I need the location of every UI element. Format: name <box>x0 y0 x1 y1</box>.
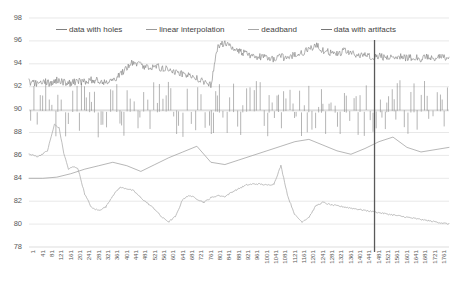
x-axis-tick-label: 441 <box>133 250 139 260</box>
x-axis-tick-label: 1001 <box>264 250 270 264</box>
x-axis-tick-label: 481 <box>142 250 148 260</box>
x-axis-tick-label: 1681 <box>422 250 428 264</box>
y-axis-tick-label: 98 <box>2 14 22 22</box>
x-axis-tick-label: 801 <box>217 250 223 260</box>
legend-line-icon <box>248 29 259 30</box>
x-axis-tick-label: 681 <box>189 250 195 260</box>
y-axis-tick-label: 84 <box>2 174 22 182</box>
x-axis-tick-label: 641 <box>180 250 186 260</box>
x-axis-tick-label: 561 <box>161 250 167 260</box>
legend-line-icon <box>146 29 157 30</box>
x-axis-tick-label: 601 <box>170 250 176 260</box>
y-axis-tick-label: 94 <box>2 59 22 67</box>
x-axis-tick-label: 201 <box>77 250 83 260</box>
legend-label: linear interpolation <box>159 25 224 34</box>
x-axis-tick-label: 1241 <box>320 250 326 264</box>
x-axis-tick-label: 281 <box>96 250 102 260</box>
x-axis-tick-label: 1161 <box>301 250 307 263</box>
y-axis-tick-label: 82 <box>2 197 22 205</box>
x-axis-tick-label: 1041 <box>273 250 279 264</box>
x-axis-tick-label: 921 <box>245 250 251 260</box>
chart-plot-area <box>0 0 453 283</box>
x-axis-tick-label: 721 <box>198 250 204 260</box>
series-data-with-artifacts <box>29 80 449 137</box>
y-axis-tick-label: 80 <box>2 220 22 228</box>
x-axis-tick-label: 241 <box>86 250 92 260</box>
x-axis-tick-label: 1761 <box>441 250 447 264</box>
x-axis-tick-label: 361 <box>114 250 120 260</box>
x-axis-tick-label: 1601 <box>404 250 410 264</box>
y-axis-tick-label: 92 <box>2 82 22 90</box>
y-axis-tick-label: 96 <box>2 36 22 44</box>
legend-item-deadband[interactable]: deadband <box>248 25 297 34</box>
x-axis-tick-label: 1281 <box>329 250 335 264</box>
legend-label: data with holes <box>69 25 122 34</box>
y-axis-tick-label: 88 <box>2 128 22 136</box>
y-axis-tick-label: 86 <box>2 151 22 159</box>
x-axis-tick-label: 961 <box>254 250 260 260</box>
x-axis-tick-label: 1321 <box>338 250 344 264</box>
legend-label: data with artifacts <box>334 25 396 34</box>
x-axis-tick-label: 881 <box>236 250 242 260</box>
x-axis-tick-label: 521 <box>152 250 158 260</box>
x-axis-tick-label: 81 <box>49 250 55 257</box>
x-axis-tick-label: 1521 <box>385 250 391 264</box>
legend-line-icon <box>321 29 332 30</box>
x-axis-tick-label: 1361 <box>348 250 354 264</box>
x-axis-tick-label: 1721 <box>432 250 438 264</box>
series-linear-interpolation <box>29 137 449 178</box>
x-axis-tick-label: 1121 <box>292 250 298 263</box>
legend-label: deadband <box>261 25 297 34</box>
legend-item-linear-interpolation[interactable]: linear interpolation <box>146 25 224 34</box>
x-axis-tick-label: 121 <box>58 250 64 260</box>
chart-container: data with holeslinear interpolationdeadb… <box>0 0 453 283</box>
x-axis-tick-label: 401 <box>124 250 130 260</box>
x-axis-tick-label: 1641 <box>413 250 419 264</box>
x-axis-tick-label: 321 <box>105 250 111 260</box>
y-axis-tick-label: 90 <box>2 105 22 113</box>
x-axis-tick-label: 1561 <box>394 250 400 264</box>
chart-legend: data with holeslinear interpolationdeadb… <box>50 22 402 37</box>
x-axis-tick-label: 1 <box>30 250 36 253</box>
y-axis-tick-label: 78 <box>2 243 22 251</box>
legend-item-data-with-artifacts[interactable]: data with artifacts <box>321 25 396 34</box>
x-axis-tick-label: 841 <box>226 250 232 260</box>
x-axis-tick-label: 1441 <box>366 250 372 264</box>
series-data-with-holes <box>29 41 449 88</box>
x-axis-tick-label: 1481 <box>376 250 382 264</box>
x-axis-tick-label: 1401 <box>357 250 363 264</box>
x-axis-tick-label: 761 <box>208 250 214 260</box>
legend-line-icon <box>56 29 67 30</box>
legend-item-data-with-holes[interactable]: data with holes <box>56 25 122 34</box>
x-axis-tick-label: 1081 <box>282 250 288 264</box>
x-axis-tick-label: 161 <box>68 250 74 260</box>
x-axis-tick-label: 41 <box>40 250 46 257</box>
x-axis-tick-label: 1201 <box>310 250 316 264</box>
